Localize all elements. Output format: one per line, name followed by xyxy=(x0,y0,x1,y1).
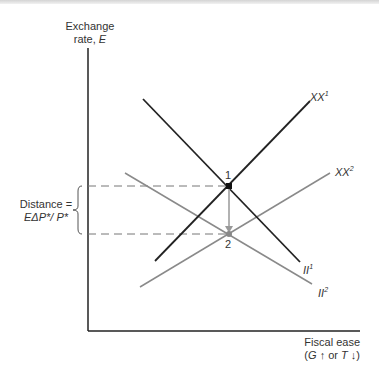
label-xx2: XX2 xyxy=(335,162,354,179)
x-axis-label: Fiscal ease (G ↑ or T ↓) xyxy=(298,336,360,362)
y-axis-label: Exchange rate, E xyxy=(65,20,115,46)
label-xx1: XX1 xyxy=(310,87,329,104)
label-ii1: II1 xyxy=(303,260,313,277)
diagram-canvas xyxy=(0,0,379,372)
brace-icon xyxy=(73,186,82,234)
point-1-label: 1 xyxy=(225,169,231,182)
distance-label: Distance = EΔP*/ P* xyxy=(18,198,74,224)
curve-xx2 xyxy=(140,173,330,287)
label-ii2: II2 xyxy=(318,283,328,300)
equilibrium-point-1 xyxy=(226,183,232,189)
point-2-label: 2 xyxy=(225,238,231,251)
curve-ii2 xyxy=(125,173,312,284)
equilibrium-point-2 xyxy=(226,231,232,237)
